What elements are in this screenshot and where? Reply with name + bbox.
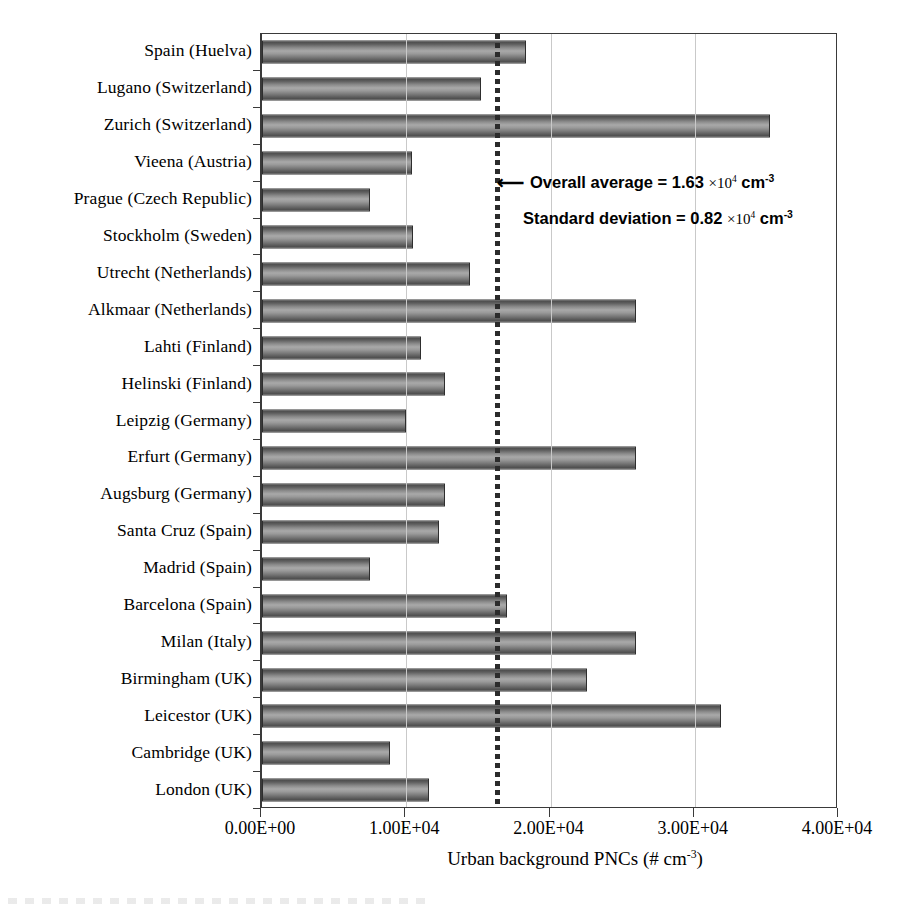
bar[interactable] [262, 189, 370, 212]
y-axis-label: London (UK) [155, 781, 252, 799]
bar[interactable] [262, 631, 636, 654]
bar[interactable] [262, 410, 406, 433]
bar-row [262, 587, 836, 624]
x-axis-tick [260, 808, 261, 817]
chart-figure: Spain (Huelva)Lugano (Switzerland)Zurich… [0, 0, 907, 909]
bar[interactable] [262, 557, 370, 580]
y-axis-label: Zurich (Switzerland) [104, 116, 252, 134]
bar-row [262, 366, 836, 403]
bar[interactable] [262, 484, 445, 507]
bar[interactable] [262, 299, 636, 322]
bar-row [262, 440, 836, 477]
bar[interactable] [262, 225, 413, 248]
bar[interactable] [262, 447, 636, 470]
y-axis-label: Spain (Huelva) [144, 42, 252, 60]
y-axis-label: Santa Cruz (Spain) [117, 522, 252, 540]
y-axis-label: Prague (Czech Republic) [74, 190, 252, 208]
x-axis-tick-label: 0.00E+00 [225, 818, 296, 839]
x-axis-tick-label: 1.00E+04 [369, 818, 440, 839]
bar-row [262, 329, 836, 366]
bar[interactable] [262, 41, 526, 64]
y-axis-label: Vieena (Austria) [134, 153, 252, 171]
bar-row [262, 34, 836, 71]
overall-average-annotation: ⟵Overall average = 1.63 ×104 cm-3 [497, 170, 774, 193]
bar[interactable] [262, 373, 445, 396]
y-axis-label: Lugano (Switzerland) [97, 79, 252, 97]
bar[interactable] [262, 742, 390, 765]
bar-row [262, 772, 836, 809]
x-axis-title-text: Urban background PNCs (# cm [447, 848, 687, 869]
bar[interactable] [262, 78, 481, 101]
x-axis-tick [837, 808, 838, 817]
plot-area [260, 33, 837, 808]
gridline-1.00E+04 [406, 34, 407, 807]
y-axis-labels: Spain (Huelva)Lugano (Switzerland)Zurich… [0, 33, 252, 808]
gridline-2.00E+04 [551, 34, 552, 807]
bar-row [262, 550, 836, 587]
x-axis-tick-label: 4.00E+04 [802, 818, 873, 839]
bar[interactable] [262, 668, 587, 691]
y-axis-label: Cambridge (UK) [132, 744, 252, 762]
x-axis-tick [404, 808, 405, 817]
bar-row [262, 255, 836, 292]
bar-row [262, 661, 836, 698]
bar-row [262, 735, 836, 772]
left-arrow-icon: ⟵ [497, 171, 524, 194]
bar[interactable] [262, 594, 507, 617]
x-axis-title-tail: ) [697, 848, 703, 869]
caption-remnant [8, 898, 428, 904]
y-axis-label: Madrid (Spain) [143, 559, 252, 577]
bar[interactable] [262, 521, 439, 544]
bar[interactable] [262, 115, 770, 138]
bar[interactable] [262, 336, 421, 359]
y-axis-label: Erfurt (Germany) [127, 448, 252, 466]
bar-row [262, 292, 836, 329]
bar-row [262, 477, 836, 514]
x-axis-tick [549, 808, 550, 817]
gridline-3.00E+04 [695, 34, 696, 807]
y-axis-label: Birmingham (UK) [121, 670, 252, 688]
y-axis-label: Alkmaar (Netherlands) [88, 301, 252, 319]
y-axis-label: Milan (Italy) [161, 633, 252, 651]
bar[interactable] [262, 152, 412, 175]
y-axis-label: Helinski (Finland) [121, 375, 252, 393]
bar[interactable] [262, 705, 721, 728]
y-axis-label: Leipzig (Germany) [116, 412, 252, 430]
bar[interactable] [262, 262, 470, 285]
bar-row [262, 403, 836, 440]
x-axis-tick-label: 3.00E+04 [657, 818, 728, 839]
bar-row [262, 514, 836, 551]
bar-row [262, 71, 836, 108]
x-axis-tick-label: 2.00E+04 [513, 818, 584, 839]
overall-average-text: Overall average = 1.63 ×104 cm-3 [530, 173, 774, 191]
average-reference-line [495, 34, 500, 807]
standard-deviation-text: Standard deviation = 0.82 ×104 cm-3 [523, 209, 793, 227]
bar-row [262, 624, 836, 661]
y-axis-label: Barcelona (Spain) [123, 596, 252, 614]
y-axis-label: Augsburg (Germany) [100, 485, 252, 503]
x-axis-tick [693, 808, 694, 817]
bar-row [262, 698, 836, 735]
x-axis-title-exponent: -3 [687, 848, 697, 861]
standard-deviation-annotation: Standard deviation = 0.82 ×104 cm-3 [523, 209, 793, 228]
x-axis-tick-labels: 0.00E+001.00E+042.00E+043.00E+044.00E+04 [0, 818, 907, 844]
x-axis-title: Urban background PNCs (# cm-3) [0, 848, 907, 870]
y-axis-label: Stockholm (Sweden) [103, 227, 252, 245]
y-axis-label: Utrecht (Netherlands) [97, 264, 252, 282]
bar[interactable] [262, 779, 429, 802]
bar-row [262, 108, 836, 145]
y-axis-label: Lahti (Finland) [144, 338, 252, 356]
bar-rows [262, 34, 836, 807]
x-axis-ticks [260, 808, 837, 817]
y-axis-label: Leicestor (UK) [144, 707, 252, 725]
